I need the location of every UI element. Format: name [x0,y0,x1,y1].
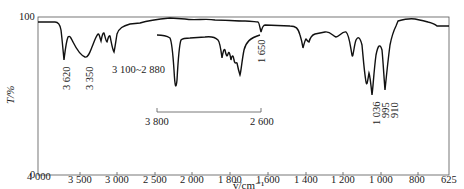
chart-svg: 3 800 2 600 4 000 3 500 3 000 2 500 2 00… [0,0,464,189]
inset-spectrum-line [157,35,260,86]
x-tick-1400: 1 400 [294,174,318,185]
plot-frame [38,17,449,175]
inset-label-right: 2 600 [250,116,274,127]
peak-label-3350: 3 350 [84,66,95,90]
y-axis-label: T/% [4,86,16,104]
x-tick-2000: 2 000 [180,174,204,185]
x-tick-marks [80,172,418,175]
x-tick-625: 625 [441,174,457,185]
x-tick-1000: 1 000 [369,174,393,185]
x-tick-3000: 3 000 [105,174,129,185]
peak-label-3100-2880: 3 100~2 880 [112,64,165,75]
y-tick-100: 100 [19,11,35,22]
x-tick-2500: 2 500 [143,174,167,185]
x-tick-800: 800 [409,174,425,185]
peak-label-910: 910 [389,102,400,118]
inset-label-left: 3 800 [145,116,169,127]
x-tick-1200: 1 200 [331,174,355,185]
peak-label-3620: 3 620 [61,66,72,90]
x-tick-3500: 3 500 [68,174,92,185]
ir-spectrum-chart: 3 800 2 600 4 000 3 500 3 000 2 500 2 00… [0,0,464,189]
y-tick-0: 0 [30,169,35,180]
peak-label-1650: 1 650 [256,39,267,63]
x-axis-label-text: ṽ/cm⁻¹ [233,179,264,189]
